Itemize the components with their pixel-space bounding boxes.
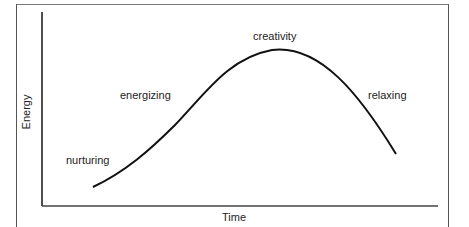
annotation-creativity: creativity <box>253 30 296 42</box>
annotation-energizing: energizing <box>120 89 171 101</box>
annotation-nurturing: nurturing <box>66 154 109 166</box>
y-axis-label: Energy <box>20 95 32 130</box>
x-axis-label: Time <box>222 211 246 223</box>
chart-plot <box>0 0 469 227</box>
energy-curve <box>93 50 396 187</box>
annotation-relaxing: relaxing <box>368 89 407 101</box>
